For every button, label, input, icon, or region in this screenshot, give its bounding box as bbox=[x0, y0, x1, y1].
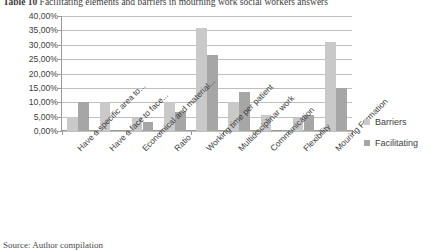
bar-group bbox=[159, 16, 191, 131]
bar-facilitating[interactable] bbox=[207, 55, 218, 131]
legend-label: Facilitating bbox=[375, 138, 418, 148]
bar-group bbox=[255, 16, 287, 131]
bar-group bbox=[191, 16, 223, 131]
x-axis-tick bbox=[352, 131, 353, 135]
bar-barriers[interactable] bbox=[325, 42, 336, 131]
x-axis-tick bbox=[94, 131, 95, 135]
y-axis-labels: 0,00%5,00%10,00%15,00%20,00%25,00%30,00%… bbox=[0, 16, 58, 132]
legend-swatch-icon bbox=[364, 140, 370, 146]
bar-barriers[interactable] bbox=[228, 102, 239, 131]
bar-barriers[interactable] bbox=[164, 102, 175, 131]
bar-facilitating[interactable] bbox=[78, 102, 89, 131]
x-axis-tick bbox=[320, 131, 321, 135]
x-axis-category-label: Ratio bbox=[172, 132, 193, 153]
x-axis-tick bbox=[255, 131, 256, 135]
x-axis-tick bbox=[126, 131, 127, 135]
gridline bbox=[62, 131, 352, 132]
bar-facilitating[interactable] bbox=[143, 122, 154, 131]
y-axis-tick-label: 40,00% bbox=[29, 11, 58, 21]
y-axis-tick-label: 30,00% bbox=[29, 40, 58, 50]
bar-facilitating[interactable] bbox=[239, 92, 250, 131]
chart-area: 0,00%5,00%10,00%15,00%20,00%25,00%30,00%… bbox=[0, 9, 439, 234]
legend-item[interactable]: Barriers bbox=[364, 117, 418, 127]
table-caption: Table 10 Facilitating elements and barri… bbox=[3, 0, 328, 7]
x-axis-tick bbox=[62, 131, 63, 135]
legend-label: Barriers bbox=[375, 117, 407, 127]
y-axis-tick-label: 15,00% bbox=[29, 83, 58, 93]
bar-barriers[interactable] bbox=[261, 115, 272, 131]
chart-legend: BarriersFacilitating bbox=[364, 117, 418, 159]
figure-container: Table 10 Facilitating elements and barri… bbox=[0, 0, 439, 250]
bar-group bbox=[126, 16, 158, 131]
bar-facilitating[interactable] bbox=[175, 112, 186, 131]
bar-group bbox=[62, 16, 94, 131]
table-caption-text: Facilitating elements and barriers in mo… bbox=[40, 0, 328, 7]
y-axis-tick-label: 5,00% bbox=[34, 112, 58, 122]
table-caption-label: Table 10 bbox=[3, 0, 37, 7]
bar-group bbox=[320, 16, 352, 131]
bar-barriers[interactable] bbox=[67, 117, 78, 131]
y-axis-tick-label: 35,00% bbox=[29, 25, 58, 35]
y-axis-tick-label: 25,00% bbox=[29, 54, 58, 64]
bar-group bbox=[94, 16, 126, 131]
plot-area bbox=[62, 16, 352, 131]
x-axis-tick bbox=[159, 131, 160, 135]
legend-swatch-icon bbox=[364, 119, 370, 125]
y-axis-tick-label: 20,00% bbox=[29, 69, 58, 79]
source-note: Source: Author compilation bbox=[3, 240, 103, 250]
bar-group bbox=[223, 16, 255, 131]
y-axis-tick-label: 10,00% bbox=[29, 97, 58, 107]
bar-barriers[interactable] bbox=[293, 118, 304, 131]
bar-group bbox=[288, 16, 320, 131]
x-axis-tick bbox=[288, 131, 289, 135]
bar-barriers[interactable] bbox=[132, 118, 143, 131]
x-axis-tick bbox=[223, 131, 224, 135]
legend-item[interactable]: Facilitating bbox=[364, 138, 418, 148]
bar-facilitating[interactable] bbox=[336, 88, 347, 131]
y-axis-tick-label: 0,00% bbox=[34, 126, 58, 136]
bar-facilitating[interactable] bbox=[304, 115, 315, 131]
x-axis-tick bbox=[191, 131, 192, 135]
bar-barriers[interactable] bbox=[100, 102, 111, 131]
bar-barriers[interactable] bbox=[196, 28, 207, 132]
